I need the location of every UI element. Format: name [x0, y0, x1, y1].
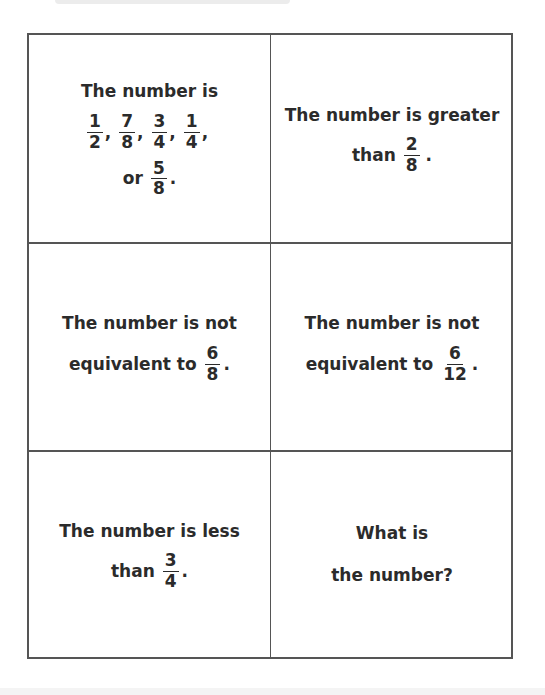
period: . [223, 356, 229, 373]
numerator: 1 [87, 113, 103, 133]
numerator: 7 [119, 113, 135, 133]
period: . [426, 147, 432, 164]
numerator: 5 [151, 160, 167, 180]
card-text-line: The number is less [59, 518, 240, 544]
card-text: or [123, 170, 143, 187]
clue-card-greater-than: The number is greater than 2 8 . [271, 35, 513, 244]
denominator: 8 [404, 156, 420, 175]
card-text: than [111, 563, 155, 580]
fraction: 6 12 [441, 345, 469, 384]
denominator: 8 [205, 365, 221, 384]
clue-card-not-equivalent-6-12: The number is not equivalent to 6 12 . [271, 244, 513, 452]
separator: , [137, 124, 143, 141]
scan-artifact-top [55, 0, 290, 4]
card-text-line: equivalent to 6 12 . [306, 345, 479, 384]
card-text-line: equivalent to 6 8 . [69, 345, 230, 384]
numerator: 3 [163, 552, 179, 572]
card-text-line: The number is not [305, 311, 480, 337]
denominator: 12 [441, 365, 469, 384]
fraction: 2 8 [404, 136, 420, 175]
card-text-line: The number is not [62, 311, 237, 337]
scan-artifact-bottom [0, 688, 545, 695]
card-text-line: The number is greater [285, 102, 500, 128]
card-text-line: the number? [331, 563, 453, 589]
card-text: equivalent to [306, 356, 434, 373]
numerator: 3 [152, 113, 168, 133]
card-text: equivalent to [69, 356, 197, 373]
denominator: 2 [87, 133, 103, 152]
clue-card-less-than: The number is less than 3 4 . [29, 452, 271, 657]
fraction: 1 2 [87, 113, 103, 152]
numerator: 6 [447, 345, 463, 365]
fraction: 5 8 [151, 160, 167, 199]
clue-card-question: What is the number? [271, 452, 513, 657]
separator: , [169, 124, 175, 141]
card-text-line: What is [356, 521, 428, 547]
period: . [170, 170, 176, 187]
separator: , [105, 124, 111, 141]
clue-card-possible-values: The number is 1 2 , 7 8 , 3 4 , 1 4 , or… [29, 35, 271, 244]
fraction: 6 8 [205, 345, 221, 384]
clue-card-grid: The number is 1 2 , 7 8 , 3 4 , 1 4 , or… [27, 33, 513, 659]
numerator: 6 [205, 345, 221, 365]
fraction: 7 8 [119, 113, 135, 152]
numerator: 2 [404, 136, 420, 156]
fraction: 3 4 [152, 113, 168, 152]
denominator: 8 [119, 133, 135, 152]
denominator: 4 [152, 133, 168, 152]
card-text-line: than 3 4 . [111, 552, 188, 591]
card-text: than [352, 147, 396, 164]
separator: , [202, 124, 208, 141]
card-text-line: than 2 8 . [352, 136, 432, 175]
period: . [182, 563, 188, 580]
denominator: 4 [184, 133, 200, 152]
denominator: 8 [151, 179, 167, 198]
fraction: 3 4 [163, 552, 179, 591]
card-text-line: or 5 8 . [123, 160, 176, 199]
period: . [472, 356, 478, 373]
denominator: 4 [163, 572, 179, 591]
card-text-line: The number is [81, 79, 218, 105]
fraction-list: 1 2 , 7 8 , 3 4 , 1 4 , [85, 113, 214, 152]
fraction: 1 4 [184, 113, 200, 152]
numerator: 1 [184, 113, 200, 133]
clue-card-not-equivalent-6-8: The number is not equivalent to 6 8 . [29, 244, 271, 452]
